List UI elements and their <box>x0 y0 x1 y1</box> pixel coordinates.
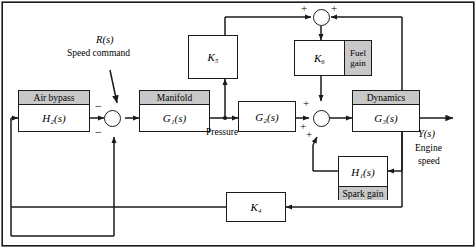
block-k5[interactable]: K₅ <box>188 35 238 79</box>
block-manifold[interactable]: Manifold G₁(s) <box>139 90 210 132</box>
block-k5-transfer: K₅ <box>189 36 237 78</box>
block-k4[interactable]: K₄ <box>226 192 286 222</box>
block-h1-transfer: H₁(s) <box>339 157 387 186</box>
signal-label-pressure: Pressure <box>206 127 238 137</box>
block-dynamics-transfer: G₃(s) <box>353 105 419 131</box>
sign-input-minus-1: − <box>95 100 102 112</box>
block-g2[interactable]: G₂(s) <box>238 101 296 132</box>
block-k6-fuel-gain-tag: Fuel gain <box>344 41 371 75</box>
sign-main-plus-top: + <box>303 98 309 109</box>
block-air-bypass[interactable]: Air bypass H₂(s) <box>18 90 90 132</box>
output-symbol-ys: Y(s) <box>418 128 435 139</box>
sign-input-minus-2: − <box>95 126 102 138</box>
summing-junction-top[interactable] <box>313 9 330 26</box>
block-h1[interactable]: H₁(s) Spark gain <box>338 156 388 200</box>
sign-top-plus-left: + <box>301 3 307 14</box>
block-g2-transfer: G₂(s) <box>239 102 295 131</box>
summing-junction-main[interactable] <box>313 110 330 127</box>
sign-top-plus-right: + <box>331 3 337 14</box>
block-air-bypass-header: Air bypass <box>19 91 89 105</box>
block-air-bypass-transfer: H₂(s) <box>19 105 89 131</box>
block-h1-spark-gain-footer: Spark gain <box>339 186 387 200</box>
block-diagram-figure: Air bypass H₂(s) Manifold G₁(s) G₂(s) Dy… <box>0 0 476 248</box>
input-label-speed-command: Speed command <box>67 48 130 58</box>
output-label-speed: speed <box>418 156 440 166</box>
block-k6[interactable]: K₆ Fuel gain <box>294 40 372 76</box>
sign-main-plus-bottom: + <box>306 129 312 140</box>
output-label-engine: Engine <box>415 143 442 153</box>
block-k4-transfer: K₄ <box>227 193 285 221</box>
block-manifold-header: Manifold <box>140 91 209 105</box>
block-dynamics[interactable]: Dynamics G₃(s) <box>352 90 420 132</box>
block-manifold-transfer: G₁(s) <box>140 105 209 131</box>
summing-junction-input[interactable] <box>104 110 121 127</box>
block-dynamics-header: Dynamics <box>353 91 419 105</box>
input-symbol-rs: R(s) <box>96 34 114 45</box>
